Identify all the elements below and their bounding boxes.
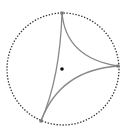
triangle-edges (41, 13, 118, 121)
edge-bottom-top (41, 13, 62, 121)
diagram-canvas (0, 0, 126, 136)
vertex-bottom-left (40, 120, 43, 123)
vertex-right (117, 65, 120, 68)
edge-right-bottom (41, 66, 118, 121)
vertex-top (61, 12, 64, 15)
edge-top-right (62, 13, 118, 66)
center-point (60, 67, 64, 71)
